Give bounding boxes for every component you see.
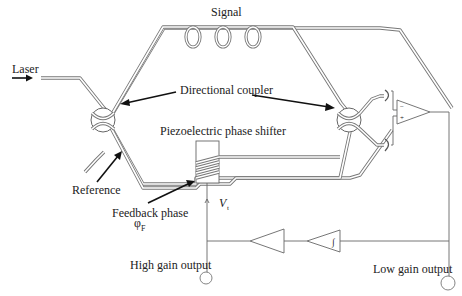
- coupler-right-arrow-icon: [252, 95, 335, 111]
- phi-subscript: F: [141, 224, 146, 233]
- coupler-right: [337, 108, 361, 132]
- detector-fibers: [360, 96, 384, 145]
- feedback-chain: ∫: [207, 229, 449, 253]
- svg-text:+: +: [400, 114, 404, 122]
- directional-coupler-label: Directional coupler: [180, 83, 273, 97]
- low-gain-terminal-icon[interactable]: [441, 276, 455, 290]
- reference-label: Reference: [72, 183, 121, 197]
- interferometer-diagram: Laser Signal: [0, 0, 462, 296]
- feedback-phase-label: Feedback phase: [112, 206, 188, 220]
- laser-label-group: Laser: [12, 62, 39, 82]
- piezo-label: Piezoelectric phase shifter: [160, 124, 286, 138]
- signal-coils: [186, 27, 260, 47]
- integrator-amplifier-icon: [307, 230, 340, 252]
- signal-label: Signal: [211, 5, 242, 19]
- phi-symbol: φ: [134, 216, 141, 230]
- gain-amplifier-icon: [250, 229, 284, 253]
- low-gain-output-label: Low gain output: [373, 262, 453, 276]
- vt-subscript: t: [227, 204, 229, 212]
- photodetector-top-icon: [385, 90, 389, 101]
- high-gain-terminal-icon[interactable]: [200, 272, 212, 284]
- fiber-paths: [41, 28, 452, 184]
- coupler-left-arrow-icon: [120, 92, 176, 106]
- differential-amplifier-icon: − +: [391, 91, 449, 288]
- high-gain-output-label: High gain output: [130, 258, 212, 272]
- laser-label: Laser: [12, 62, 39, 76]
- coupler-left: [91, 108, 115, 132]
- svg-text:−: −: [400, 103, 404, 111]
